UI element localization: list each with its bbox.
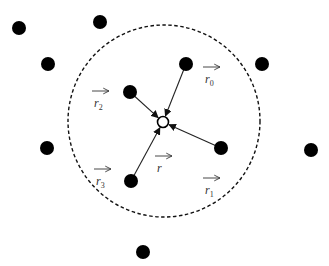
vector-arrow: [165, 64, 186, 116]
outer-point: [12, 21, 26, 35]
vector-label-text: r0: [205, 72, 214, 88]
vector-label-text: r2: [94, 96, 103, 112]
vector-label-r1: r1: [203, 178, 220, 199]
neighbor-point-p1: [214, 141, 228, 155]
vector-arrow: [169, 125, 221, 148]
vector-label-text: r1: [205, 183, 214, 199]
vector-label-r0: r0: [203, 67, 220, 88]
neighbor-point-p2: [123, 85, 137, 99]
outer-point: [304, 143, 318, 157]
vector-label-text: r: [157, 161, 162, 175]
outer-point: [40, 141, 54, 155]
center-point: [158, 117, 169, 128]
vector-label-text: r3: [96, 174, 105, 190]
diagram-canvas: r0r1r2r3r: [0, 0, 329, 266]
outer-point: [93, 15, 107, 29]
vector-label-r: r: [155, 156, 172, 175]
neighbor-points: [123, 57, 228, 188]
neighbor-point-p3: [124, 174, 138, 188]
vector-arrow: [131, 128, 160, 181]
outer-point: [255, 57, 269, 71]
neighbor-point-p0: [179, 57, 193, 71]
vector-label-r3: r3: [94, 169, 111, 190]
outer-point: [136, 245, 150, 259]
vector-label-r2: r2: [92, 91, 109, 112]
vector-labels: r0r1r2r3r: [92, 67, 220, 199]
outer-point: [41, 57, 55, 71]
outer-points: [12, 15, 318, 259]
